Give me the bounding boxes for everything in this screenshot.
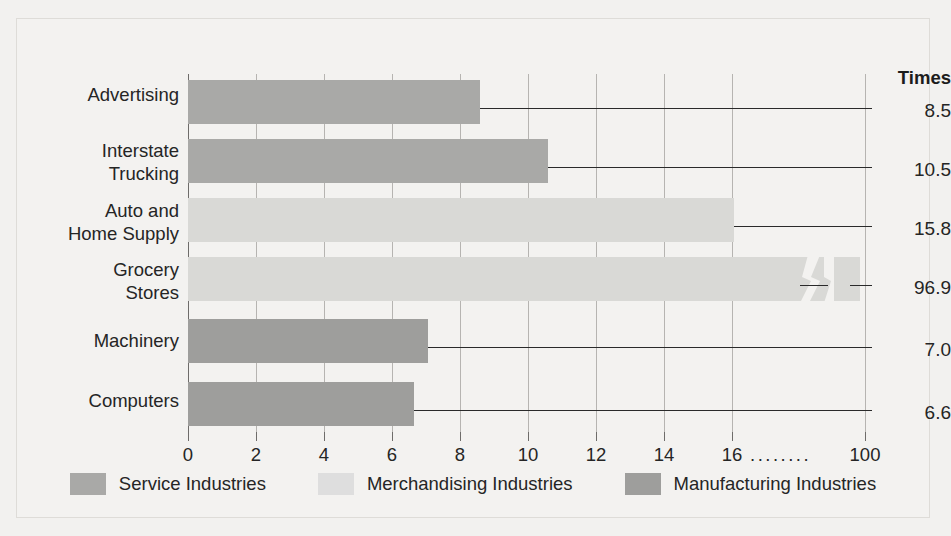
legend-swatch-icon [70,473,106,495]
gridline-4 [324,74,325,432]
bar-interstate-trucking [188,139,548,183]
xtick-100 [865,432,866,441]
value-grocery-stores: 96.9 [914,277,951,299]
xtick-8 [460,432,461,441]
leader-line-advertising [480,108,872,109]
y-label-line1: Auto and [19,199,179,222]
y-label-machinery: Machinery [19,329,179,352]
y-axis-labels: Advertising Interstate Trucking Auto and… [17,74,179,432]
y-label-computers: Computers [19,389,179,412]
y-label-line2: Home Supply [19,222,179,245]
leader-line-grocery-stores [850,285,872,286]
xtick-16 [732,432,733,441]
y-label-line2: Trucking [19,162,179,185]
gridline-8 [460,74,461,432]
legend-item-merchandising-industries: Merchandising Industries [318,473,573,495]
legend-label: Service Industries [119,473,266,495]
xtick-14 [664,432,665,441]
leader-line-computers [414,410,872,411]
gridline-2 [256,74,257,432]
legend-swatch-icon [318,473,354,495]
legend-swatch-icon [625,473,661,495]
y-label-line1: Advertising [19,83,179,106]
xtick-10 [528,432,529,441]
y-label-auto-and-home-supply: Auto and Home Supply [19,199,179,245]
y-label-line1: Interstate [19,139,179,162]
y-label-line1: Computers [19,389,179,412]
gridline-0 [188,74,189,432]
bar-machinery [188,319,428,363]
xtick-0 [188,432,189,441]
value-column-header: Times [898,67,951,89]
leader-line-machinery [428,347,872,348]
gridline-12 [596,74,597,432]
bar-advertising [188,80,480,124]
bar-auto-and-home-supply [188,198,734,242]
bar-computers [188,382,414,426]
leader-line-grocery-stores-left [800,285,828,286]
value-column: Times 8.5 10.5 15.8 96.9 7.0 6.6 [879,67,951,437]
y-label-line2: Stores [19,281,179,304]
plot-area [188,74,866,432]
leader-line-auto-and-home-supply [734,226,872,227]
y-label-advertising: Advertising [19,83,179,106]
xtick-2 [256,432,257,441]
value-auto-and-home-supply: 15.8 [914,218,951,240]
value-advertising: 8.5 [925,100,951,122]
gridline-16 [732,74,733,432]
value-interstate-trucking: 10.5 [914,159,951,181]
bar-grocery-stores [188,257,860,301]
xtick-12 [596,432,597,441]
value-computers: 6.6 [925,402,951,424]
gridline-6 [392,74,393,432]
gridline-14 [664,74,665,432]
axis-break-icon [800,255,834,303]
legend-item-manufacturing-industries: Manufacturing Industries [625,473,877,495]
gridline-100 [865,74,866,432]
y-label-grocery-stores: Grocery Stores [19,258,179,304]
chart-legend: Service Industries Merchandising Industr… [16,462,930,506]
legend-label: Manufacturing Industries [674,473,877,495]
legend-label: Merchandising Industries [367,473,573,495]
chart-frame: Advertising Interstate Trucking Auto and… [16,18,930,518]
leader-line-interstate-trucking [548,167,872,168]
legend-item-service-industries: Service Industries [70,473,266,495]
xtick-4 [324,432,325,441]
y-label-line1: Grocery [19,258,179,281]
chart-page: Advertising Interstate Trucking Auto and… [0,0,951,536]
gridline-10 [528,74,529,432]
y-label-line1: Machinery [19,329,179,352]
y-label-interstate-trucking: Interstate Trucking [19,139,179,185]
value-machinery: 7.0 [925,339,951,361]
xtick-6 [392,432,393,441]
